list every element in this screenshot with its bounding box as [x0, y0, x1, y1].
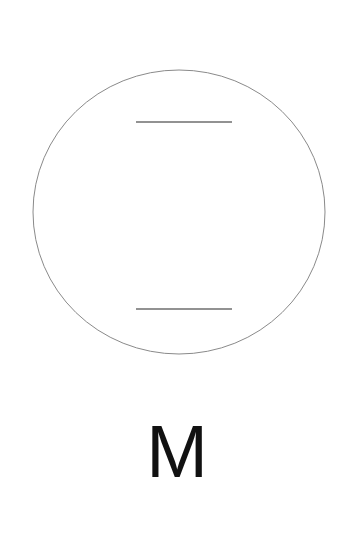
circle-outline — [33, 70, 325, 354]
figure-page: M — [0, 0, 354, 536]
schematic-svg — [0, 0, 354, 400]
figure-canvas — [0, 0, 354, 400]
figure-caption-letter: M — [0, 415, 354, 489]
